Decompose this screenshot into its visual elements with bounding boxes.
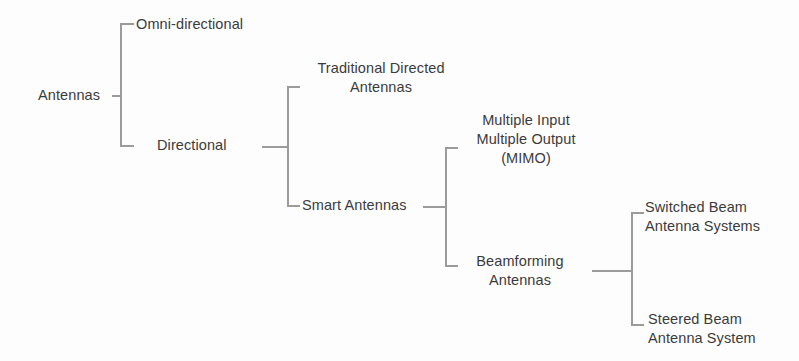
- bracket-stem-level4: [631, 212, 633, 325]
- antenna-classification-diagram: Antennas Omni-directional Directional Tr…: [0, 0, 799, 361]
- connector-stem4-to-switched: [631, 212, 644, 214]
- node-antennas: Antennas: [38, 86, 114, 105]
- connector-beamforming-to-stem4: [592, 270, 632, 272]
- connector-smart-to-stem3: [423, 206, 446, 208]
- connector-stem1-to-directional: [120, 145, 134, 147]
- node-traditional-directed-antennas: Traditional Directed Antennas: [298, 59, 464, 97]
- connector-stem1-to-omni: [120, 23, 134, 25]
- bracket-stem-level2: [287, 86, 289, 206]
- connector-directional-to-stem2: [262, 146, 288, 148]
- node-directional: Directional: [157, 136, 262, 155]
- connector-stem2-to-smart: [287, 205, 300, 207]
- connector-stem4-to-steered: [631, 324, 644, 326]
- node-beamforming-antennas: Beamforming Antennas: [456, 252, 584, 290]
- node-smart-antennas: Smart Antennas: [302, 196, 422, 215]
- node-mimo: Multiple Input Multiple Output (MIMO): [456, 111, 596, 168]
- node-steered-beam-antenna-system: Steered Beam Antenna System: [648, 310, 798, 348]
- bracket-stem-level3: [445, 147, 447, 266]
- node-omni-directional: Omni-directional: [136, 15, 276, 34]
- bracket-stem-level1: [120, 23, 122, 146]
- node-switched-beam-antenna-systems: Switched Beam Antenna Systems: [645, 198, 795, 236]
